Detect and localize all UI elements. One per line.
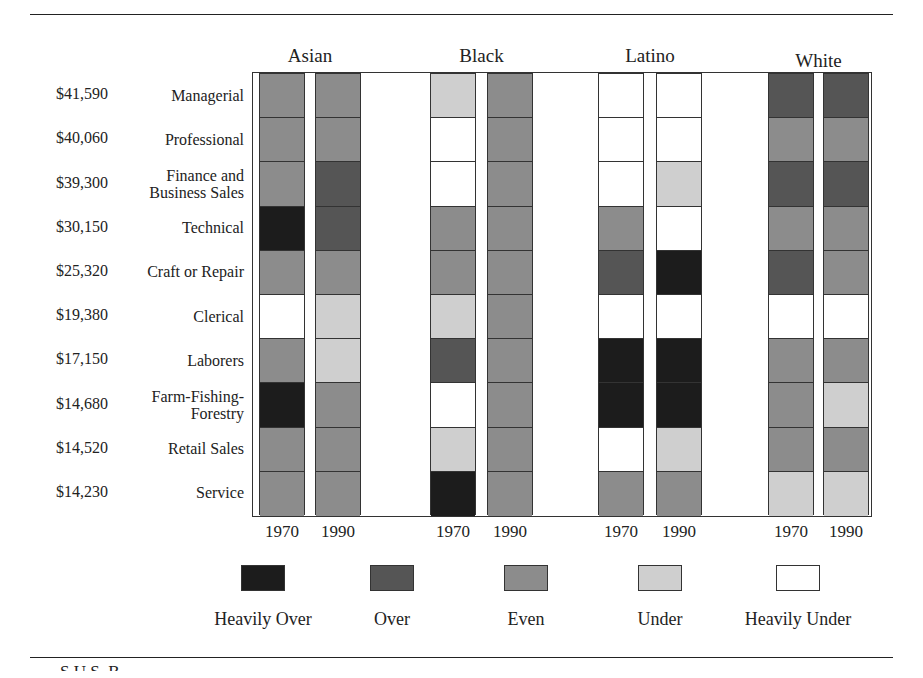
bottom-rule xyxy=(30,657,893,658)
cell xyxy=(824,251,868,295)
cell xyxy=(824,295,868,339)
cell xyxy=(431,472,475,516)
cell xyxy=(769,472,813,516)
year-label: 1970 xyxy=(259,522,305,542)
occupation-label: Laborers xyxy=(110,352,244,369)
cell xyxy=(824,383,868,427)
cell xyxy=(599,428,643,472)
cell xyxy=(599,472,643,516)
cell xyxy=(599,251,643,295)
cell xyxy=(824,162,868,206)
cell xyxy=(431,118,475,162)
right-frame xyxy=(871,72,872,516)
cell xyxy=(824,74,868,118)
income-label: $14,230 xyxy=(0,483,108,501)
year-label: 1970 xyxy=(430,522,476,542)
column-asian-1970 xyxy=(259,73,305,515)
year-label: 1970 xyxy=(768,522,814,542)
column-white-1970 xyxy=(768,73,814,515)
cell xyxy=(488,74,532,118)
cell xyxy=(488,472,532,516)
cell xyxy=(316,162,360,206)
source-note: S U.S. B xyxy=(60,662,120,678)
cell xyxy=(824,207,868,251)
cell xyxy=(316,295,360,339)
cell xyxy=(260,383,304,427)
cell xyxy=(316,428,360,472)
cell xyxy=(824,472,868,516)
legend-swatch-under xyxy=(638,565,682,591)
cell xyxy=(769,118,813,162)
cell xyxy=(769,251,813,295)
occupation-label: Professional xyxy=(110,131,244,148)
cell xyxy=(316,251,360,295)
cell xyxy=(431,74,475,118)
income-label: $39,300 xyxy=(0,174,108,192)
cell xyxy=(260,207,304,251)
cell xyxy=(824,428,868,472)
occupation-label: Service xyxy=(110,484,244,501)
column-black-1970 xyxy=(430,73,476,515)
cell xyxy=(316,383,360,427)
cell xyxy=(657,207,701,251)
cell xyxy=(769,295,813,339)
cell xyxy=(657,339,701,383)
group-title-black: Black xyxy=(412,45,552,67)
cell xyxy=(431,339,475,383)
cell xyxy=(488,162,532,206)
group-title-asian: Asian xyxy=(240,45,380,67)
cell xyxy=(431,428,475,472)
cell xyxy=(488,339,532,383)
cell xyxy=(657,74,701,118)
cell xyxy=(599,74,643,118)
occupation-label: Craft or Repair xyxy=(110,263,244,280)
cell xyxy=(599,207,643,251)
column-white-1990 xyxy=(823,73,869,515)
cell xyxy=(657,251,701,295)
cell xyxy=(769,339,813,383)
cell xyxy=(488,295,532,339)
bottom-axis-line xyxy=(252,516,872,517)
cell xyxy=(769,383,813,427)
cell xyxy=(260,162,304,206)
income-label: $14,680 xyxy=(0,395,108,413)
legend-swatch-over xyxy=(370,565,414,591)
cell xyxy=(769,162,813,206)
cell xyxy=(488,251,532,295)
year-label: 1990 xyxy=(823,522,869,542)
group-title-latino: Latino xyxy=(580,45,720,67)
legend-swatch-heavily-under xyxy=(776,565,820,591)
cell xyxy=(657,295,701,339)
cell xyxy=(769,74,813,118)
cell xyxy=(431,162,475,206)
top-rule xyxy=(30,14,893,15)
cell xyxy=(657,118,701,162)
year-label: 1990 xyxy=(315,522,361,542)
legend-label: Under xyxy=(580,609,740,630)
year-label: 1990 xyxy=(487,522,533,542)
cell xyxy=(488,383,532,427)
cell xyxy=(824,118,868,162)
income-label: $41,590 xyxy=(0,85,108,103)
cell xyxy=(599,118,643,162)
cell xyxy=(657,383,701,427)
cell xyxy=(657,162,701,206)
legend-label: Heavily Under xyxy=(718,609,878,630)
cell xyxy=(488,428,532,472)
cell xyxy=(316,472,360,516)
occupation-label: Farm-Fishing-Forestry xyxy=(110,388,244,422)
cell xyxy=(431,207,475,251)
cell xyxy=(316,118,360,162)
income-label: $40,060 xyxy=(0,129,108,147)
cell xyxy=(260,428,304,472)
cell xyxy=(657,472,701,516)
income-label: $14,520 xyxy=(0,439,108,457)
cell xyxy=(599,339,643,383)
column-black-1990 xyxy=(487,73,533,515)
income-label: $30,150 xyxy=(0,218,108,236)
cell xyxy=(769,207,813,251)
cell xyxy=(431,295,475,339)
occupation-label: Technical xyxy=(110,219,244,236)
legend-swatch-heavily-over xyxy=(241,565,285,591)
occupation-label: Retail Sales xyxy=(110,440,244,457)
